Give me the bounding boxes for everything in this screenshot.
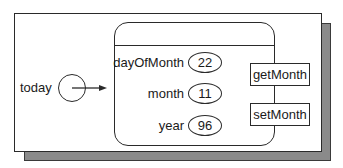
object-header-divider — [115, 45, 274, 46]
field-label-month: month — [110, 86, 184, 101]
field-value-year: 96 — [188, 115, 222, 136]
field-value-month: 11 — [188, 83, 222, 104]
field-value-dayofmonth: 22 — [188, 52, 222, 73]
method-setmonth: setMonth — [250, 103, 310, 126]
method-getmonth: getMonth — [250, 63, 310, 86]
field-label-dayofmonth: dayOfMonth — [110, 55, 184, 70]
field-label-year: year — [110, 118, 184, 133]
